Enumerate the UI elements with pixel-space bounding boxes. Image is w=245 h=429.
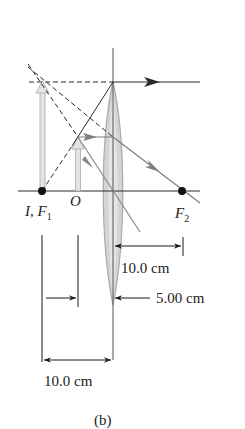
svg-text:5.00 cm: 5.00 cm — [156, 290, 205, 306]
svg-text:10.0 cm: 10.0 cm — [44, 373, 93, 389]
dimension-focal-left: 10.0 cm — [44, 360, 111, 389]
focal-ray-dashed — [42, 146, 72, 191]
focal-point-f1-dot — [38, 187, 46, 195]
object-arrow — [72, 137, 84, 191]
figure-caption: (b) — [94, 412, 112, 429]
label-image-focal: I, F1 — [24, 203, 52, 222]
ray-arrowhead-refracted — [145, 160, 160, 172]
focal-point-f2-dot — [178, 187, 186, 195]
image-arrow — [36, 81, 49, 191]
label-f2: F2 — [174, 205, 189, 224]
lens-ray-diagram: I, F1 O F2 10.0 cm 5.00 cm 10.0 cm (b) — [0, 0, 245, 429]
central-ray-back-extension — [28, 64, 78, 137]
svg-text:10.0 cm: 10.0 cm — [121, 260, 170, 276]
dimension-focal-right: 10.0 cm — [115, 237, 183, 276]
dimension-object-distance: 5.00 cm — [42, 235, 205, 362]
label-object: O — [70, 193, 81, 209]
